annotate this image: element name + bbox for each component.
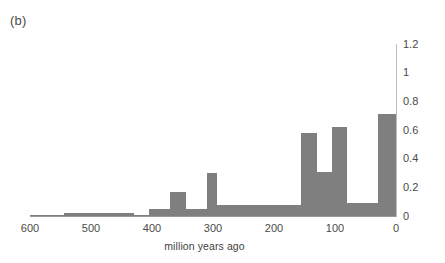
y-axis-line — [396, 44, 397, 217]
y-axis-tick-label: 0.8 — [403, 96, 418, 107]
y-axis-tick-label: 1 — [403, 67, 409, 78]
plot-area — [30, 44, 396, 216]
y-axis-tick-label: 0 — [403, 211, 409, 222]
y-axis-tick-label: 0.4 — [403, 153, 418, 164]
x-axis-tick-label: 500 — [71, 222, 111, 235]
x-axis-tick-label: 0 — [376, 222, 416, 235]
histogram-bar — [170, 192, 185, 216]
x-axis-tick-label: 400 — [132, 222, 172, 235]
panel-label: (b) — [10, 13, 27, 29]
histogram-bar — [301, 133, 316, 216]
x-axis-title-text: million years ago — [164, 240, 245, 252]
y-axis-tick-label: 0.6 — [403, 125, 418, 136]
x-axis-tick-label: 600 — [10, 222, 50, 235]
x-axis-tick-label: 200 — [254, 222, 294, 235]
figure-panel-b: (b) 00.20.40.60.811.2 600500400300200100… — [0, 0, 445, 263]
x-axis-title: million years ago — [0, 240, 445, 253]
histogram-bar — [347, 203, 378, 216]
y-axis-tick-label: 1.2 — [403, 39, 418, 50]
y-axis-tick-label: 0.2 — [403, 182, 418, 193]
histogram-bar — [332, 127, 347, 216]
histogram-bar — [149, 209, 170, 216]
histogram-bar — [317, 172, 332, 216]
histogram-bar — [186, 209, 207, 216]
histogram-bar — [378, 114, 396, 216]
histogram-bar — [217, 205, 301, 216]
histogram-bar — [207, 173, 217, 216]
x-axis-tick-label: 300 — [193, 222, 233, 235]
x-axis-tick-label: 100 — [315, 222, 355, 235]
x-axis-line — [30, 216, 397, 217]
